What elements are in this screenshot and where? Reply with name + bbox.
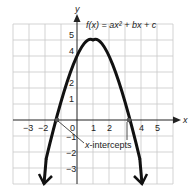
svg-text:4: 4	[69, 46, 74, 56]
svg-text:1: 1	[69, 94, 74, 104]
y-tick-labels: 5 4 2 1 −1 −2 −3	[66, 30, 76, 174]
y-axis-arrow-icon	[74, 14, 81, 22]
grid	[13, 24, 173, 184]
x-axis-arrow-icon	[173, 117, 181, 124]
x-tick-labels: −3 −2 0 1 2 4 5	[23, 123, 160, 133]
x-intercepts-annotation: x-intercepts	[84, 140, 132, 150]
svg-text:2: 2	[69, 78, 74, 88]
function-label: f(x) = ax² + bx + c	[86, 20, 157, 30]
svg-text:−3: −3	[66, 164, 76, 174]
svg-text:5: 5	[69, 30, 74, 40]
svg-text:−2: −2	[66, 148, 76, 158]
x-axis-label: x	[182, 115, 188, 125]
svg-text:−1: −1	[66, 132, 76, 142]
y-axis-label: y	[74, 4, 80, 14]
svg-text:−2: −2	[38, 123, 48, 133]
axes	[13, 20, 176, 184]
svg-text:4: 4	[139, 123, 144, 133]
svg-text:−3: −3	[23, 123, 33, 133]
svg-text:2: 2	[107, 123, 112, 133]
x-intercept-right	[127, 118, 131, 122]
svg-text:1: 1	[91, 123, 96, 133]
parabola-graph: x y −3 −2 0 1 2 4 5 5 4 2 1 −1 −2 −3 f(x…	[0, 0, 190, 194]
svg-text:5: 5	[155, 123, 160, 133]
